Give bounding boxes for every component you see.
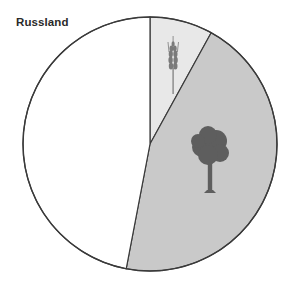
pie-slice-sonstige [23, 17, 150, 269]
pie-slices [23, 17, 277, 271]
pie-chart [0, 0, 299, 287]
